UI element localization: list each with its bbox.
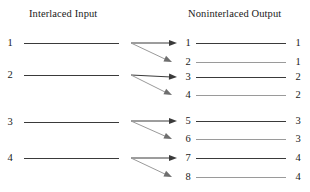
arrow-layer: [0, 0, 310, 192]
field-to-line-arrow-slanted: [131, 75, 167, 93]
output-source-field-number: 3: [292, 116, 304, 127]
field-to-line-arrow-straight: [131, 75, 171, 77]
field-to-line-arrow-slanted: [131, 158, 167, 175]
field-to-line-arrow-slanted: [131, 43, 167, 60]
output-source-field-number: 4: [292, 172, 304, 183]
output-row-number: 5: [182, 116, 194, 127]
output-scan-line: [196, 177, 286, 178]
field-to-line-arrow-slanted: [131, 121, 167, 137]
output-row-number: 8: [182, 172, 194, 183]
output-scan-line: [196, 62, 286, 63]
output-scan-line: [196, 77, 286, 78]
output-row-number: 4: [182, 90, 194, 101]
arrowhead-straight: [169, 155, 177, 161]
output-source-field-number: 4: [292, 153, 304, 164]
arrowhead-slanted: [163, 133, 173, 142]
interlacing-diagram: Interlaced Input Noninterlaced Output 12…: [0, 0, 310, 192]
output-source-field-number: 3: [292, 134, 304, 145]
output-source-field-number: 2: [292, 72, 304, 83]
arrowhead-straight: [169, 40, 177, 46]
output-scan-line: [196, 158, 286, 159]
output-row-number: 2: [182, 57, 194, 68]
output-scan-line: [196, 139, 286, 140]
output-row-number: 1: [182, 38, 194, 49]
arrowhead-slanted: [163, 89, 173, 98]
arrowhead-straight: [169, 74, 177, 81]
output-row-number: 7: [182, 153, 194, 164]
arrowhead-slanted: [163, 171, 173, 180]
output-source-field-number: 2: [292, 90, 304, 101]
output-source-field-number: 1: [292, 57, 304, 68]
output-scan-line: [196, 95, 286, 96]
output-source-field-number: 1: [292, 38, 304, 49]
output-row-number: 6: [182, 134, 194, 145]
arrowhead-straight: [169, 118, 177, 124]
output-scan-line: [196, 43, 286, 44]
arrowhead-slanted: [163, 56, 173, 65]
output-scan-line: [196, 121, 286, 122]
output-row-number: 3: [182, 72, 194, 83]
